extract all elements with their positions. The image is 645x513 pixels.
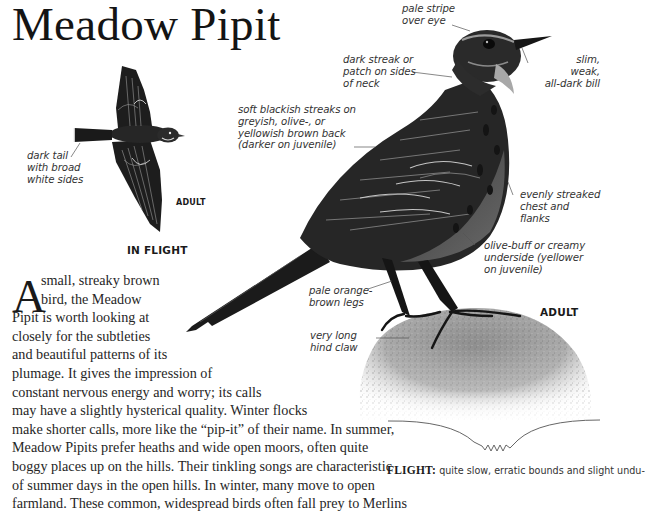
underside-annotation: olive-buff or creamy underside (yellower…	[484, 240, 585, 275]
bill-annotation: slim, weak, all-dark bill	[544, 54, 600, 89]
main-age-label: ADULT	[540, 306, 578, 318]
flight-caption: IN FLIGHT	[127, 244, 188, 256]
flight-age-label: ADULT	[176, 198, 206, 207]
chest-annotation: evenly streaked chest and flanks	[520, 189, 601, 224]
body-paragraph: small, streaky brown bird, the Meadow Pi…	[12, 271, 407, 513]
flight-pattern-text: quite slow, erratic bounds and slight un…	[439, 465, 645, 476]
flight-pattern-note: FLIGHT: quite slow, erratic bounds and s…	[387, 464, 645, 476]
neck-streak-annotation: dark streak or patch on sides of neck	[343, 54, 416, 89]
back-annotation: soft blackish streaks on greyish, olive-…	[238, 104, 356, 151]
bird-in-flight-illustration	[74, 66, 185, 232]
pale-stripe-annotation: pale stripe over eye	[402, 3, 455, 27]
flight-pattern-label: FLIGHT:	[387, 464, 436, 476]
tail-annotation: dark tail with broad white sides	[27, 150, 83, 185]
